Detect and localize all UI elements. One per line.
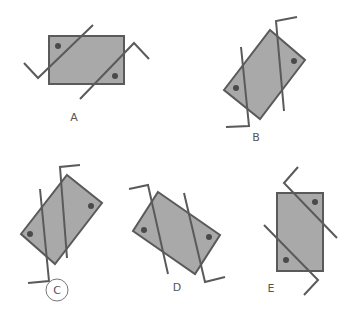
dot <box>112 73 118 79</box>
dot <box>206 234 212 240</box>
figure-b: B <box>224 17 305 144</box>
figure-label: C <box>53 284 61 297</box>
figure-d: D <box>129 185 225 294</box>
figure-label: B <box>252 131 260 144</box>
dot <box>312 199 318 205</box>
rectangle <box>224 30 305 119</box>
figure-a: A <box>24 25 149 124</box>
dot <box>27 231 33 237</box>
dot <box>283 257 289 263</box>
figure-e: E <box>264 167 337 295</box>
dot <box>88 203 94 209</box>
dot <box>141 227 147 233</box>
rectangle <box>133 192 220 274</box>
figure-label: D <box>173 281 181 294</box>
diagram-canvas: A B C D E <box>0 0 354 320</box>
dot <box>55 43 61 49</box>
figure-label: A <box>70 111 78 124</box>
dot <box>291 58 297 64</box>
figure-label: E <box>268 282 275 295</box>
figure-c: C <box>21 165 102 301</box>
dot <box>233 85 239 91</box>
